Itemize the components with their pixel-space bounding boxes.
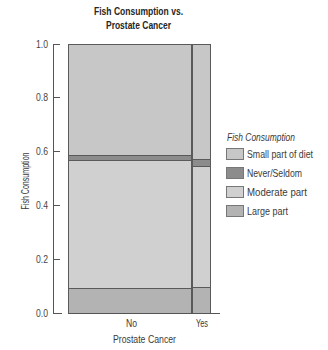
legend-item-moderate-part: Moderate part — [227, 186, 308, 198]
legend-label-never-seldom: Never/Seldom — [247, 167, 302, 179]
y-tick-label-3: 0.6 — [36, 145, 48, 157]
mosaic-bars — [69, 45, 211, 314]
bar-segment-no-large-part — [69, 288, 192, 313]
bar-segment-no-moderate-part — [69, 160, 192, 288]
legend-label-large-part: Large part — [247, 205, 288, 217]
y-tick-label-1: 0.2 — [36, 253, 48, 265]
x-axis-title: Prostate Cancer — [113, 333, 176, 345]
legend-swatch-large-part — [227, 206, 244, 217]
legend-item-large-part: Large part — [227, 205, 289, 217]
legend-swatch-never-seldom — [227, 168, 244, 179]
legend-swatch-small-part — [227, 149, 244, 160]
legend-title: Fish Consumption — [227, 131, 295, 143]
x-category-label-yes: Yes — [196, 317, 208, 329]
bar-segment-yes-moderate-part — [192, 166, 210, 288]
chart-title-line-2: Prostate Cancer — [106, 19, 171, 31]
y-tick-label-4: 0.8 — [36, 91, 48, 103]
x-category-label-no: No — [126, 317, 137, 329]
y-tick-label-5: 1.0 — [36, 38, 48, 50]
bar-segment-no-small-part-of-diet — [69, 45, 192, 156]
legend-item-small-part: Small part of diet — [227, 148, 314, 160]
y-tick-label-0: 0.0 — [36, 307, 48, 319]
legend-label-moderate-part: Moderate part — [247, 186, 307, 198]
mosaic-chart: Fish Consumption vs. Prostate Cancer 0.0… — [0, 0, 328, 350]
chart-title-line-1: Fish Consumption vs. — [94, 5, 183, 17]
legend-swatch-moderate-part — [227, 187, 244, 198]
y-tick-label-2: 0.4 — [36, 199, 48, 211]
bar-segment-yes-never-seldom — [192, 159, 210, 166]
legend-item-never-seldom: Never/Seldom — [227, 167, 303, 179]
bar-segment-yes-large-part — [192, 288, 210, 314]
bar-segment-yes-small-part-of-diet — [192, 45, 210, 160]
legend-label-small-part: Small part of diet — [247, 148, 313, 160]
y-axis-title: Fish Consumption — [19, 152, 31, 209]
bar-segment-no-never-seldom — [69, 155, 192, 160]
